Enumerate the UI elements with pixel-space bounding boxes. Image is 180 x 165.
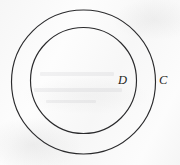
- geometry-figure: D C: [0, 0, 180, 165]
- inner-circle-label-d: D: [118, 74, 127, 87]
- outer-circle-label-c: C: [159, 74, 167, 87]
- outer-circle-c: [12, 10, 156, 154]
- circles-svg-canvas: [0, 0, 180, 165]
